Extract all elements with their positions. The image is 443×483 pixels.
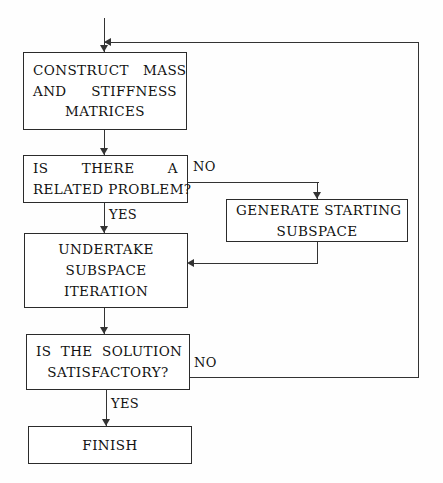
node-finish-line-1: FINISH <box>29 435 191 456</box>
node-construct-line-2: AND STIFFNESS <box>24 81 186 102</box>
node-undertake-subspace-iteration[interactable]: UNDERTAKE SUBSPACE ITERATION <box>24 233 188 308</box>
node-generate-line-2: SUBSPACE <box>227 221 407 242</box>
node-related-line-1: IS THERE A <box>24 158 187 179</box>
node-is-there-a-related-problem[interactable]: IS THERE A RELATED PROBLEM? <box>23 155 188 203</box>
edge-label-no-related: NO <box>193 159 216 174</box>
node-related-line-2: RELATED PROBLEM? <box>24 179 187 200</box>
node-construct-line-3: MATRICES <box>24 101 186 122</box>
generate-return-arrowhead <box>187 259 194 267</box>
node-generate-starting-subspace[interactable]: GENERATE STARTING SUBSPACE <box>226 199 408 242</box>
no-branch-arrowhead <box>313 192 321 199</box>
no-branch-horizontal <box>188 182 319 183</box>
entry-arrowhead <box>100 45 108 52</box>
node-undertake-line-3: ITERATION <box>25 281 187 302</box>
yes-satisfactory-arrowhead <box>102 419 110 426</box>
feedback-loop-arrowhead <box>104 38 111 46</box>
node-satisfactory-line-1: IS THE SOLUTION <box>27 341 189 362</box>
generate-return-horizontal <box>189 263 318 264</box>
yes-branch-arrowhead <box>100 226 108 233</box>
node-generate-line-1: GENERATE STARTING <box>227 200 407 221</box>
flowchart-canvas: NO YES NO YES CONSTRUCT MASS AND STIFFNE… <box>0 0 443 483</box>
no-satisfactory-horizontal <box>190 377 419 378</box>
edge-label-no-satisfactory: NO <box>194 355 217 370</box>
undertake-to-decision-arrowhead <box>100 327 108 334</box>
node-satisfactory-line-2: SATISFACTORY? <box>27 362 189 383</box>
node-construct-line-1: CONSTRUCT MASS <box>24 60 186 81</box>
edge-label-yes-satisfactory: YES <box>111 396 139 411</box>
construct-to-decision-arrowhead <box>100 148 108 155</box>
edge-label-yes-related: YES <box>109 207 137 222</box>
generate-return-vertical <box>317 242 318 264</box>
feedback-loop-vertical <box>418 42 419 378</box>
node-finish[interactable]: FINISH <box>28 426 192 464</box>
node-undertake-line-2: SUBSPACE <box>25 260 187 281</box>
node-construct-matrices[interactable]: CONSTRUCT MASS AND STIFFNESS MATRICES <box>23 52 187 130</box>
node-undertake-line-1: UNDERTAKE <box>25 239 187 260</box>
node-is-the-solution-satisfactory[interactable]: IS THE SOLUTION SATISFACTORY? <box>26 334 190 390</box>
feedback-loop-top-horizontal <box>104 42 419 43</box>
